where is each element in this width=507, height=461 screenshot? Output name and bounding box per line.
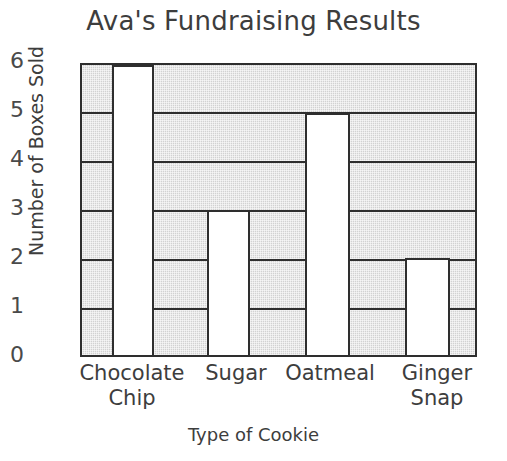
x-tick-label-sugar: Sugar [186, 361, 286, 386]
y-tick-label: 3 [0, 195, 24, 220]
x-axis-title: Type of Cookie [0, 424, 507, 445]
plot-area [80, 63, 477, 357]
bar-chart: Ava's Fundraising Results Number of Boxe… [0, 0, 507, 461]
bar-ginger-snap[interactable] [405, 258, 450, 355]
y-tick-label: 5 [0, 97, 24, 122]
x-tick-line: Sugar [186, 361, 286, 386]
x-tick-label-oatmeal: Oatmeal [275, 361, 385, 386]
x-tick-label-ginger-snap: Ginger Snap [382, 361, 492, 411]
y-axis-title: Number of Boxes Sold [25, 31, 47, 271]
y-tick-label: 1 [0, 293, 24, 318]
y-tick-label: 6 [0, 48, 24, 73]
x-tick-line: Chocolate [62, 361, 202, 386]
bar-oatmeal[interactable] [305, 113, 350, 355]
bar-sugar[interactable] [207, 210, 250, 355]
x-tick-line: Chip [62, 386, 202, 411]
bar-chocolate-chip[interactable] [112, 65, 154, 355]
x-tick-line: Oatmeal [275, 361, 385, 386]
y-tick-label: 0 [0, 342, 24, 367]
x-tick-line: Snap [382, 386, 492, 411]
y-tick-label: 2 [0, 244, 24, 269]
x-tick-line: Ginger [382, 361, 492, 386]
x-tick-label-chocolate-chip: Chocolate Chip [62, 361, 202, 411]
y-tick-label: 4 [0, 146, 24, 171]
chart-title: Ava's Fundraising Results [0, 6, 507, 36]
